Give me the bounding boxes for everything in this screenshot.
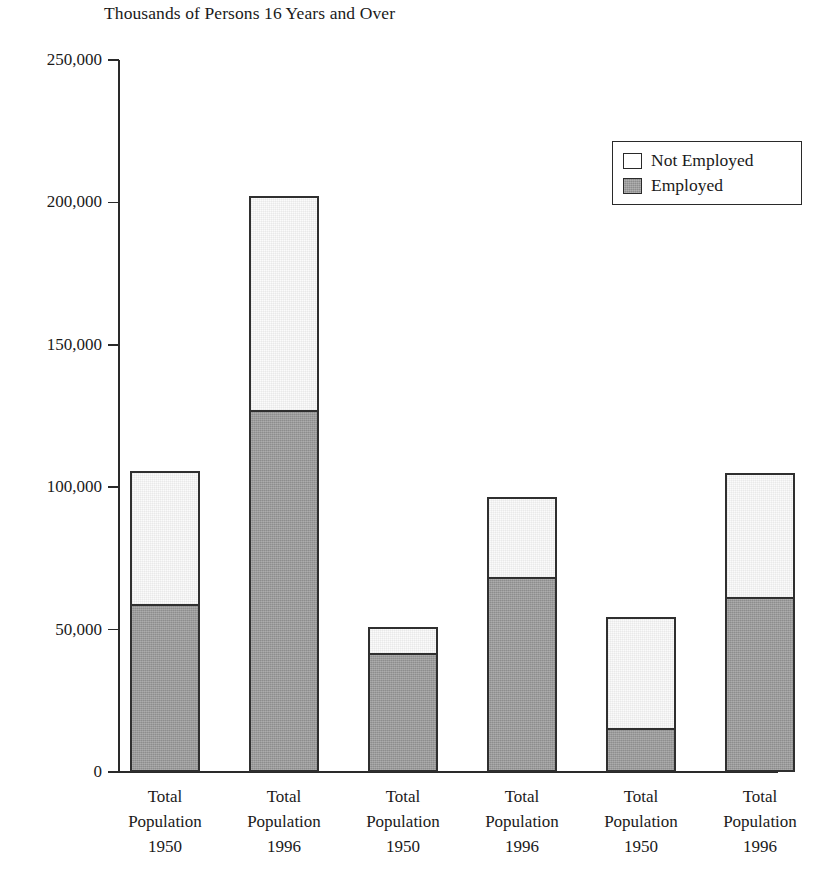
bar-segment-employed[interactable] (606, 728, 676, 772)
x-axis-category-label-line: 1950 (339, 834, 467, 859)
legend-item-not-employed[interactable]: Not Employed (623, 148, 801, 173)
bar-segment-not-employed[interactable] (130, 471, 200, 606)
x-axis-category-label: TotalPopulation1996 (458, 784, 586, 859)
y-axis-tick-label: 100,000 (47, 477, 102, 497)
y-axis-tick-label: 150,000 (47, 335, 102, 355)
y-axis-tick-label: 200,000 (47, 192, 102, 212)
x-axis-category-label-line: Population (577, 809, 705, 834)
x-axis-category-label-line: 1996 (458, 834, 586, 859)
x-axis-category-label-line: 1950 (101, 834, 229, 859)
bar-stack[interactable] (249, 196, 319, 772)
legend-label-employed: Employed (651, 175, 723, 196)
y-axis-tick-mark (108, 59, 119, 61)
legend: Not Employed Employed (612, 141, 802, 205)
white-square-icon (623, 153, 642, 169)
x-axis-category-label: TotalPopulation1950 (577, 784, 705, 859)
y-axis-tick-label: 0 (94, 762, 103, 782)
y-axis-tick-mark (108, 771, 119, 773)
x-axis-category-label-line: Total (696, 784, 815, 809)
bar-segment-employed[interactable] (487, 577, 557, 772)
x-axis-category-label-line: 1996 (220, 834, 348, 859)
stacked-bar-chart: Thousands of Persons 16 Years and Over 2… (0, 0, 815, 881)
x-axis-category-label-line: Population (696, 809, 815, 834)
chart-title: Thousands of Persons 16 Years and Over (104, 3, 395, 24)
x-axis-category-label-line: 1950 (577, 834, 705, 859)
bar-segment-not-employed[interactable] (487, 497, 557, 579)
x-axis-category-label-line: Population (101, 809, 229, 834)
x-axis-category-label-line: Population (220, 809, 348, 834)
bar-segment-employed[interactable] (725, 597, 795, 772)
x-axis-category-label-line: Total (220, 784, 348, 809)
bar-segment-employed[interactable] (368, 653, 438, 772)
y-axis-tick-mark (108, 629, 119, 631)
bar-segment-employed[interactable] (249, 410, 319, 772)
x-axis-category-label: TotalPopulation1996 (696, 784, 815, 859)
bar-stack[interactable] (606, 617, 676, 772)
x-axis-category-label: TotalPopulation1950 (339, 784, 467, 859)
legend-label-not-employed: Not Employed (651, 150, 754, 171)
x-axis-category-label-line: Total (577, 784, 705, 809)
bar-segment-not-employed[interactable] (606, 617, 676, 730)
bar-stack[interactable] (130, 471, 200, 772)
bar-stack[interactable] (725, 473, 795, 772)
x-axis-category-label-line: Population (458, 809, 586, 834)
x-axis-category-label: TotalPopulation1950 (101, 784, 229, 859)
y-axis-tick-mark (108, 202, 119, 204)
bar-segment-not-employed[interactable] (249, 196, 319, 412)
bar-segment-employed[interactable] (130, 604, 200, 772)
y-axis-tick-label: 50,000 (55, 620, 102, 640)
bar-segment-not-employed[interactable] (725, 473, 795, 599)
bar-stack[interactable] (368, 627, 438, 772)
x-axis-line (118, 771, 778, 773)
y-axis-tick-label: 250,000 (47, 50, 102, 70)
y-axis-tick-mark (108, 344, 119, 346)
bar-stack[interactable] (487, 497, 557, 772)
x-axis-category-label-line: 1996 (696, 834, 815, 859)
x-axis-category-label-line: Total (101, 784, 229, 809)
x-axis-category-label-line: Total (458, 784, 586, 809)
legend-item-employed[interactable]: Employed (623, 173, 801, 198)
bar-segment-not-employed[interactable] (368, 627, 438, 655)
y-axis-line (118, 60, 120, 773)
x-axis-category-label: TotalPopulation1996 (220, 784, 348, 859)
x-axis-category-label-line: Total (339, 784, 467, 809)
x-axis-category-label-line: Population (339, 809, 467, 834)
gray-square-icon (623, 178, 642, 194)
y-axis-tick-mark (108, 486, 119, 488)
